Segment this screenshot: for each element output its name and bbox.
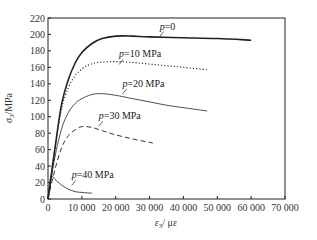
y-tick-label: 220 xyxy=(30,13,45,24)
curve-label: p=20 MPa xyxy=(121,78,165,89)
x-axis-title: ε3/ με xyxy=(155,217,177,230)
y-tick-label: 120 xyxy=(30,95,45,106)
label-leader xyxy=(72,180,76,185)
x-tick-label: 10 000 xyxy=(68,202,96,213)
curve-label: p=10 MPa xyxy=(118,48,162,59)
y-tick-label: 60 xyxy=(35,144,45,155)
curve-label: p=30 MPa xyxy=(98,110,142,121)
y-tick-label: 180 xyxy=(30,45,45,56)
x-tick-label: 40 000 xyxy=(170,202,198,213)
label-leader xyxy=(122,89,126,94)
y-tick-label: 80 xyxy=(35,128,45,139)
x-tick-label: 0 xyxy=(46,202,51,213)
curve-p-30-mpa xyxy=(48,126,153,199)
x-tick-label: 60 000 xyxy=(237,202,265,213)
x-tick-label: 70 000 xyxy=(271,202,299,213)
x-tick-label: 30 000 xyxy=(136,202,164,213)
curve-label: p=40 MPa xyxy=(71,169,115,180)
label-leader xyxy=(99,121,103,126)
y-tick-label: 20 xyxy=(35,177,45,188)
stress-strain-chart: 020406080100120140160180200220 010 00020… xyxy=(0,0,317,240)
y-tick-label: 140 xyxy=(30,78,45,89)
y-tick-label: 40 xyxy=(35,161,45,172)
curve-label: p=0 xyxy=(159,21,176,32)
x-tick-label: 20 000 xyxy=(102,202,130,213)
curve-labels: p=0p=10 MPap=20 MPap=30 MPap=40 MPa xyxy=(71,21,176,186)
label-leader xyxy=(160,32,164,37)
y-tick-label: 200 xyxy=(30,29,45,40)
y-tick-label: 160 xyxy=(30,62,45,73)
y-tick-label: 0 xyxy=(40,194,45,205)
y-tick-label: 100 xyxy=(30,111,45,122)
x-tick-label: 50 000 xyxy=(204,202,232,213)
y-axis-title: σ3/MPa xyxy=(3,92,16,123)
